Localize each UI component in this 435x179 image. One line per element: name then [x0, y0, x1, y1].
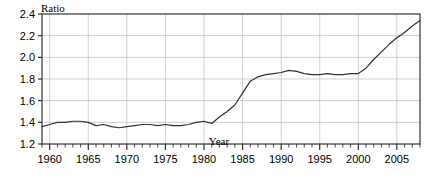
y-tick-label: 2.2	[20, 30, 35, 42]
y-tick-label: 2.0	[20, 51, 35, 63]
x-tick-label: 1960	[37, 153, 61, 165]
x-tick-label: 1985	[230, 153, 254, 165]
axis-ticks	[38, 14, 420, 150]
y-tick-label: 1.2	[20, 138, 35, 150]
series-line-ratio	[42, 21, 420, 128]
y-tick-label: 1.8	[20, 73, 35, 85]
y-axis-label: Ratio	[41, 2, 65, 14]
x-tick-label: 2005	[385, 153, 409, 165]
chart-figure: 1.21.41.61.82.02.22.4 196019651970197519…	[0, 0, 435, 179]
y-tick-label: 1.6	[20, 95, 35, 107]
x-tick-label: 1990	[269, 153, 293, 165]
x-tick-label: 1965	[76, 153, 100, 165]
y-tick-label: 1.4	[20, 116, 35, 128]
x-axis-label: Year	[209, 135, 230, 147]
y-tick-label: 2.4	[20, 8, 35, 20]
data-series-line	[42, 21, 420, 128]
y-axis-tick-labels: 1.21.41.61.82.02.22.4	[20, 8, 35, 150]
grid-lines	[42, 14, 420, 144]
x-tick-label: 1975	[153, 153, 177, 165]
x-tick-label: 1995	[307, 153, 331, 165]
line-chart: 1.21.41.61.82.02.22.4 196019651970197519…	[0, 0, 435, 179]
x-tick-label: 2000	[346, 153, 370, 165]
x-tick-label: 1980	[192, 153, 216, 165]
x-tick-label: 1970	[115, 153, 139, 165]
x-axis-tick-labels: 1960196519701975198019851990199520002005	[37, 153, 409, 165]
